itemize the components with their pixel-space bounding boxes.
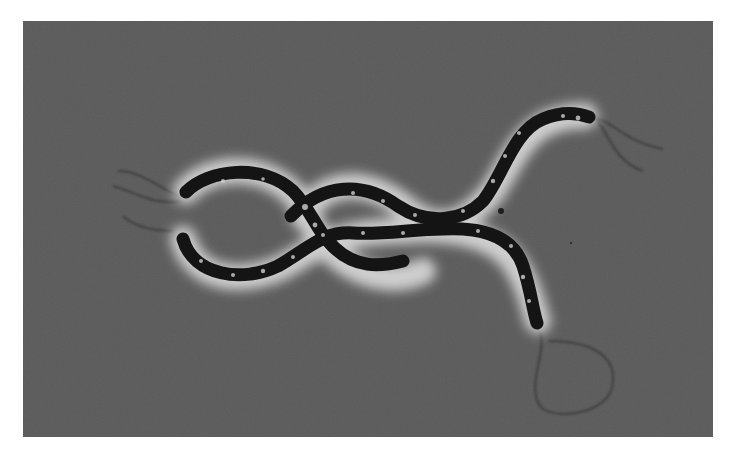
debris-2 [570,242,572,244]
micrograph-image [23,21,713,437]
debris [498,208,504,214]
micrograph-svg [23,21,713,437]
